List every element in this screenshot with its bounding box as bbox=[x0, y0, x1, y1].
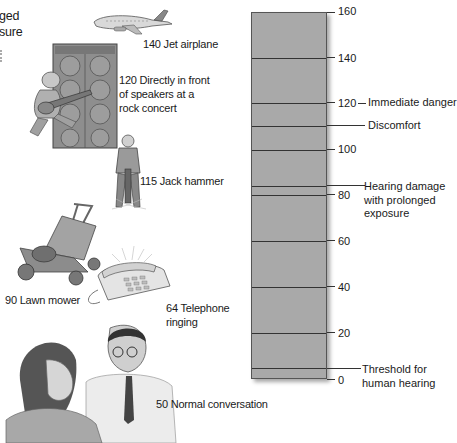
tick-label-100: 100 bbox=[338, 143, 356, 155]
cropped-caption-dots bbox=[0, 50, 6, 62]
lawn-mower-label: 90 Lawn mower bbox=[5, 294, 80, 307]
gridline-threshold-5 bbox=[252, 368, 326, 369]
gridline-80 bbox=[252, 195, 326, 196]
tick-40 bbox=[327, 286, 335, 287]
jet-airplane-icon bbox=[92, 8, 182, 36]
tick-label-80: 80 bbox=[338, 189, 350, 201]
tick-0 bbox=[327, 379, 335, 380]
tick-label-40: 40 bbox=[338, 281, 350, 293]
tick-label-140: 140 bbox=[338, 52, 356, 64]
tick-80 bbox=[327, 194, 335, 195]
jet-airplane-label: 140 Jet airplane bbox=[143, 38, 218, 51]
hearing-damage-label: Hearing damage with prolonged exposure bbox=[364, 180, 445, 221]
jack-hammer-label: 115 Jack hammer bbox=[140, 175, 224, 188]
gridline-hearing-damage-85 bbox=[252, 186, 326, 187]
gridline-20 bbox=[252, 333, 326, 334]
cropped-caption-line-1: ged bbox=[0, 8, 23, 24]
two-people-talking-icon bbox=[6, 320, 176, 443]
conversation-label: 50 Normal conversation bbox=[156, 398, 268, 411]
tick-label-60: 60 bbox=[338, 235, 350, 247]
cropped-caption: ged sure bbox=[0, 8, 23, 40]
gridline-140 bbox=[252, 58, 326, 59]
immediate-danger-label: Immediate danger bbox=[368, 96, 457, 109]
jack-hammer-icon bbox=[108, 133, 148, 213]
discomfort-leader bbox=[327, 125, 365, 126]
tick-140 bbox=[327, 57, 335, 58]
tick-100 bbox=[327, 149, 335, 150]
ringing-telephone-icon bbox=[82, 246, 174, 310]
gridline-40 bbox=[252, 287, 326, 288]
tick-label-0: 0 bbox=[338, 374, 344, 386]
cropped-caption-line-2: sure bbox=[0, 24, 23, 40]
tick-label-160: 160 bbox=[338, 5, 356, 17]
tick-20 bbox=[327, 332, 335, 333]
tick-120 bbox=[327, 102, 335, 103]
threshold-label: Threshold for human hearing bbox=[362, 363, 435, 390]
tick-60 bbox=[327, 240, 335, 241]
hearing-damage-leader bbox=[327, 185, 365, 186]
tick-label-120: 120 bbox=[338, 97, 356, 109]
guitarist-icon bbox=[26, 70, 96, 140]
discomfort-label: Discomfort bbox=[368, 119, 421, 132]
gridline-100 bbox=[252, 150, 326, 151]
decibel-scale-bar bbox=[251, 12, 327, 379]
immediate-danger-leader bbox=[358, 103, 366, 104]
tick-160 bbox=[327, 12, 335, 13]
tick-label-20: 20 bbox=[338, 327, 350, 339]
rock-concert-label: 120 Directly in front of speakers at a r… bbox=[119, 73, 210, 115]
threshold-leader bbox=[327, 368, 361, 369]
gridline-60 bbox=[252, 241, 326, 242]
gridline-discomfort-110 bbox=[252, 126, 326, 127]
gridline-120 bbox=[252, 103, 326, 104]
